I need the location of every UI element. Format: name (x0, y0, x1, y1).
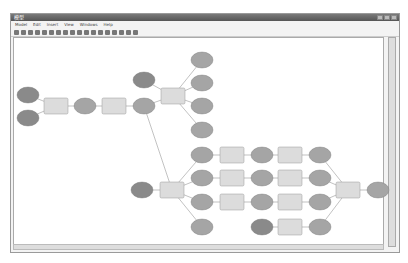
tool-process-rect[interactable] (278, 219, 302, 235)
tool-process-rect[interactable] (220, 147, 244, 163)
input-data-oval[interactable] (133, 72, 155, 88)
input-data-oval[interactable] (17, 87, 39, 103)
tool-process-rect[interactable] (160, 182, 184, 198)
tool-process-rect[interactable] (278, 170, 302, 186)
tool-process-rect[interactable] (220, 170, 244, 186)
output-data-oval[interactable] (133, 98, 155, 114)
output-data-oval[interactable] (251, 147, 273, 163)
output-data-oval[interactable] (191, 147, 213, 163)
tool-process-rect[interactable] (220, 194, 244, 210)
output-data-oval[interactable] (191, 122, 213, 138)
output-data-oval[interactable] (309, 194, 331, 210)
tool-process-rect[interactable] (278, 194, 302, 210)
output-data-oval[interactable] (309, 219, 331, 235)
output-data-oval[interactable] (251, 170, 273, 186)
tool-process-rect[interactable] (161, 88, 185, 104)
output-data-oval[interactable] (191, 75, 213, 91)
output-data-oval[interactable] (251, 194, 273, 210)
output-data-oval[interactable] (191, 52, 213, 68)
output-data-oval[interactable] (367, 182, 389, 198)
output-data-oval[interactable] (191, 170, 213, 186)
output-data-oval[interactable] (74, 98, 96, 114)
tool-process-rect[interactable] (336, 182, 360, 198)
output-data-oval[interactable] (309, 170, 331, 186)
tool-process-rect[interactable] (102, 98, 126, 114)
input-data-oval[interactable] (17, 110, 39, 126)
input-data-oval[interactable] (251, 219, 273, 235)
tool-process-rect[interactable] (44, 98, 68, 114)
model-diagram (0, 0, 408, 263)
output-data-oval[interactable] (191, 219, 213, 235)
output-data-oval[interactable] (191, 194, 213, 210)
tool-process-rect[interactable] (278, 147, 302, 163)
input-data-oval[interactable] (131, 182, 153, 198)
output-data-oval[interactable] (191, 98, 213, 114)
output-data-oval[interactable] (309, 147, 331, 163)
